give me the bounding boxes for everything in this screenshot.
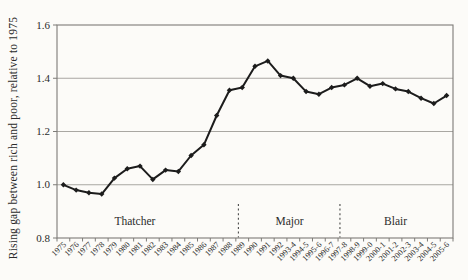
era-label: Blair: [384, 215, 407, 227]
y-tick-label: 0.8: [36, 232, 50, 244]
data-line: [63, 61, 446, 194]
data-point-marker: [73, 187, 78, 192]
y-axis-ticks: [53, 25, 57, 238]
y-tick-label: 1.4: [36, 72, 50, 84]
data-point-marker: [86, 190, 91, 195]
y-tick-label: 1.0: [36, 178, 50, 190]
era-label: Thatcher: [114, 215, 155, 227]
x-tick-labels: 1975197619771978197919801981198219831984…: [50, 239, 451, 263]
era-label: Major: [275, 215, 303, 228]
gridlines: [57, 78, 453, 185]
line-chart: ThatcherMajorBlair0.81.01.21.41.61975197…: [0, 0, 468, 280]
data-point-marker: [393, 86, 398, 91]
y-tick-labels: 0.81.01.21.41.6: [36, 19, 50, 244]
y-tick-label: 1.6: [36, 19, 50, 31]
book-chart-figure: Rising gap between rich and poor, relati…: [0, 0, 468, 280]
era-labels: ThatcherMajorBlair: [114, 215, 407, 228]
y-tick-label: 1.2: [36, 125, 50, 137]
